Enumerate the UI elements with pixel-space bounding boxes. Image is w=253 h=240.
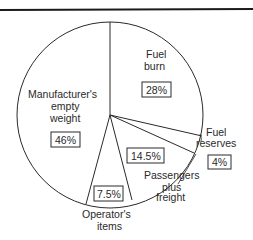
- operator-label-2: items: [97, 220, 122, 232]
- operator-pct: 7.5%: [97, 188, 121, 200]
- passengers-pct: 14.5%: [131, 150, 161, 162]
- fuel-burn-label-1: Fuel: [146, 48, 166, 60]
- manufacturer-pct: 46%: [55, 134, 76, 146]
- passengers-label-3: freight: [156, 191, 185, 203]
- fuel-burn-label-2: burn: [144, 60, 165, 72]
- manufacturer-label-3: weight: [49, 112, 80, 124]
- fuel-reserves-pct: 4%: [212, 156, 227, 168]
- operator-label-1: Operator's: [82, 208, 131, 220]
- manufacturer-label-2: empty: [51, 100, 80, 112]
- fuel-reserves-label-2: reserves: [196, 137, 236, 149]
- top-rule: [0, 9, 253, 10]
- passengers-label-1: Passengers: [144, 169, 199, 181]
- manufacturer-label-1: Manufacturer's: [28, 88, 97, 100]
- fuel-burn-pct: 28%: [146, 84, 167, 96]
- pie-chart: Fuel burn 28% Manufacturer's empty weigh…: [0, 0, 253, 240]
